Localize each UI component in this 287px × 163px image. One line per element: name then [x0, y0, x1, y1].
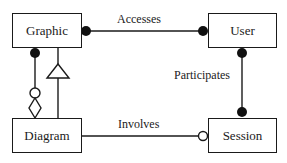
relationship-label-participates: Participates [174, 68, 230, 83]
generalization-connector [47, 48, 69, 118]
relationship-label-involves: Involves [118, 117, 159, 132]
aggregation-connector [29, 48, 41, 118]
entity-label: Graphic [26, 23, 68, 39]
entity-graphic[interactable]: Graphic [12, 13, 82, 48]
entity-label: Diagram [24, 128, 69, 144]
filled-circle-icon [237, 107, 247, 117]
open-circle-icon [199, 132, 208, 141]
open-circle-icon [30, 88, 40, 98]
entity-user[interactable]: User [208, 13, 277, 48]
entity-label: Session [223, 128, 263, 144]
open-diamond-icon [29, 98, 41, 118]
er-diagram-canvas: Graphic User Diagram Session Accesses Pa… [0, 0, 287, 163]
relationship-label-accesses: Accesses [117, 12, 161, 27]
entity-session[interactable]: Session [208, 118, 277, 153]
filled-circle-icon [30, 48, 40, 58]
accesses-connector [81, 26, 208, 36]
open-triangle-icon [47, 64, 69, 78]
entity-label: User [230, 23, 255, 39]
filled-circle-icon [81, 26, 91, 36]
filled-circle-icon [198, 26, 208, 36]
involves-connector [82, 132, 208, 141]
participates-connector [237, 48, 247, 117]
filled-circle-icon [237, 48, 247, 58]
entity-diagram[interactable]: Diagram [12, 118, 82, 153]
